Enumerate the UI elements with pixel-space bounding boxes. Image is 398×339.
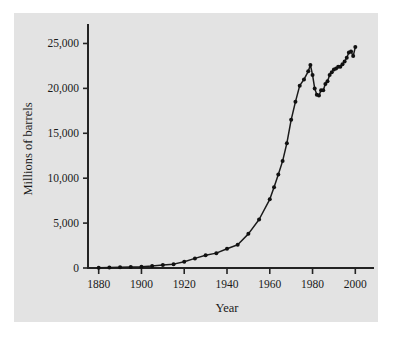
y-axis-tick-label: 15,000	[47, 127, 79, 140]
data-point-marker	[293, 100, 297, 104]
data-point-marker	[276, 173, 280, 177]
y-axis-title: Millions of barrels	[21, 102, 35, 195]
data-point-marker	[150, 264, 154, 268]
x-axis-tick-label: 2000	[344, 278, 367, 290]
data-point-marker	[161, 263, 165, 267]
data-point-marker	[172, 262, 176, 266]
data-point-marker	[118, 265, 122, 269]
y-axis-tick-label: 5,000	[53, 217, 79, 230]
x-axis-tick-label: 1940	[216, 278, 239, 290]
data-point-marker	[308, 63, 312, 67]
x-axis-tick-label: 1960	[258, 278, 281, 290]
data-point-marker	[193, 256, 197, 260]
data-point-marker	[353, 45, 357, 49]
data-point-marker	[272, 185, 276, 189]
data-point-marker	[281, 159, 285, 163]
data-point-marker	[298, 84, 302, 88]
data-point-marker	[214, 251, 218, 255]
data-point-marker	[204, 253, 208, 257]
chart-canvas: false05,00010,00015,00020,00025,00018801…	[0, 0, 398, 339]
data-point-marker	[129, 265, 133, 269]
data-point-marker	[268, 197, 272, 201]
data-point-marker	[302, 77, 306, 81]
data-point-marker	[311, 73, 315, 77]
data-series-line	[99, 47, 356, 268]
data-point-marker	[289, 118, 293, 122]
data-point-marker	[285, 141, 289, 145]
data-point-marker	[97, 266, 101, 270]
data-point-marker	[321, 88, 325, 92]
data-point-marker	[257, 218, 261, 222]
figure-root: false05,00010,00015,00020,00025,00018801…	[0, 0, 398, 339]
x-axis-tick-label: 1980	[301, 278, 324, 290]
data-point-marker	[351, 54, 355, 58]
data-point-marker	[349, 50, 353, 54]
data-point-marker	[246, 232, 250, 236]
y-axis-tick-label: 20,000	[47, 82, 79, 95]
x-axis-title: Year	[215, 301, 239, 315]
data-point-marker	[345, 56, 349, 60]
data-point-marker	[306, 69, 310, 73]
data-point-marker	[343, 59, 347, 63]
x-axis-tick-label: 1880	[87, 278, 110, 290]
y-axis-tick-label: 25,000	[47, 37, 79, 50]
data-point-marker	[236, 243, 240, 247]
data-point-marker	[326, 79, 330, 83]
data-point-marker	[107, 265, 111, 269]
data-point-marker	[139, 265, 143, 269]
y-axis-tick-label: 0	[73, 262, 79, 274]
data-point-marker	[317, 94, 321, 98]
data-point-marker	[313, 86, 317, 90]
data-point-marker	[225, 247, 229, 251]
x-axis-tick-label: 1920	[173, 278, 196, 290]
line-chart-svg: false05,00010,00015,00020,00025,00018801…	[0, 0, 398, 339]
data-point-marker	[182, 260, 186, 264]
y-axis-tick-label: 10,000	[47, 172, 79, 185]
x-axis-tick-label: 1900	[130, 278, 153, 290]
